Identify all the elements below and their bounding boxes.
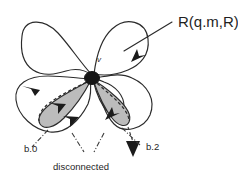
loop-upper-right bbox=[94, 22, 148, 75]
shaded-petal-left bbox=[39, 80, 91, 127]
leader-line-disconnected-left bbox=[72, 133, 84, 152]
label-relation: R(q.m,R) bbox=[178, 13, 238, 30]
leader-line-disconnected-right bbox=[94, 133, 104, 152]
loop-upper-left bbox=[21, 22, 92, 75]
arrowhead-left-outer bbox=[22, 86, 40, 96]
rose-graph-figure: R(q.m,R) v b.0 b.2 disconnected bbox=[0, 0, 238, 181]
central-vertex bbox=[85, 72, 100, 85]
label-branch-right: b.2 bbox=[146, 141, 159, 152]
label-branch-left: b.0 bbox=[24, 143, 37, 154]
arrowhead-left-petal-lower bbox=[63, 116, 79, 127]
label-vertex: v bbox=[97, 55, 102, 64]
arrowhead-upper-right bbox=[131, 49, 146, 62]
diagram-canvas: R(q.m,R) v b.0 b.2 disconnected bbox=[0, 0, 238, 181]
label-disconnected-caption: disconnected bbox=[53, 161, 109, 172]
